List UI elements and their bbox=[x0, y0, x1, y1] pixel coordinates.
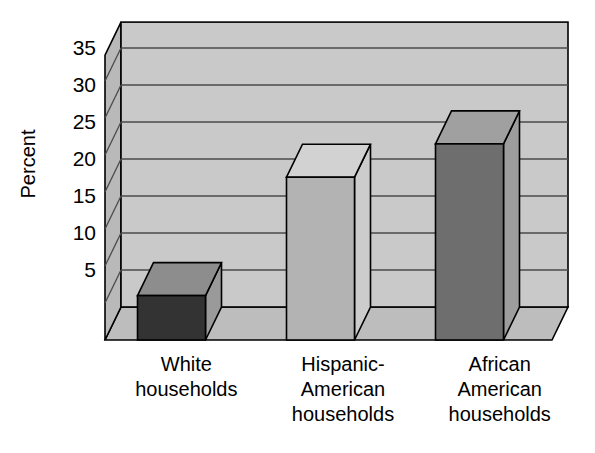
x-category-label-line: American bbox=[421, 377, 578, 402]
x-category-label-1: Whitehouseholds bbox=[108, 352, 265, 452]
bar-1 bbox=[138, 263, 222, 340]
x-category-label-line: households bbox=[108, 377, 265, 402]
x-category-label-line: Hispanic- bbox=[265, 352, 422, 377]
bar-3 bbox=[436, 111, 520, 340]
bar-chart: Percent 5101520253035 WhitehouseholdsHis… bbox=[0, 0, 595, 453]
x-category-label-line: households bbox=[421, 402, 578, 427]
bar-2 bbox=[287, 144, 371, 340]
x-category-label-line: households bbox=[265, 402, 422, 427]
x-category-label-3: AfricanAmericanhouseholds bbox=[421, 352, 578, 452]
x-category-label-line: White bbox=[108, 352, 265, 377]
x-axis-category-labels: WhitehouseholdsHispanic-Americanhousehol… bbox=[108, 352, 578, 452]
x-category-label-2: Hispanic-Americanhouseholds bbox=[265, 352, 422, 452]
x-category-label-line: American bbox=[265, 377, 422, 402]
x-category-label-line: African bbox=[421, 352, 578, 377]
